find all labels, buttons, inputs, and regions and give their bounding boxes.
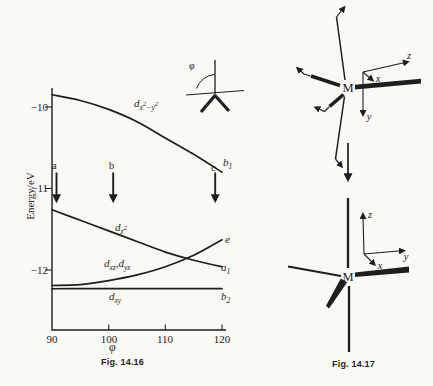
metal-label-top: M [342, 82, 353, 95]
axis-arrow-z-bottom [363, 217, 364, 254]
x-axis-title: φ [109, 341, 116, 353]
y-tick-label-neg10: −10 [26, 102, 48, 113]
symmetry-label-a1: a1 [221, 262, 230, 273]
symmetry-label-b1: b1 [223, 157, 232, 168]
chart-axes [52, 88, 226, 330]
curve-label-dxy: dxy [109, 291, 121, 302]
x-tick-label-110: 110 [153, 334, 177, 345]
axis-arrow-x-top [363, 72, 371, 79]
curve-a1 [52, 210, 222, 267]
axis-arrow-y-bottom [364, 251, 401, 254]
bond-equatorial-left [311, 76, 340, 86]
arrow-label-b: b [109, 161, 114, 172]
axis-label-bottom-y: y [404, 252, 409, 263]
inset-phi-label: φ [189, 61, 195, 71]
curve-label-dz2: dz2 [115, 222, 127, 233]
structure-top-square-pyramid [300, 10, 422, 165]
inset-angle-arc [197, 75, 215, 89]
motion-arrow-down [336, 159, 341, 165]
inset-wedge-bond-right [215, 96, 229, 112]
axis-arrow-z-top [363, 63, 405, 73]
phi-marker-arrows [57, 173, 216, 197]
symmetry-label-e: e [225, 234, 230, 245]
x-tick-label-90: 90 [40, 334, 64, 345]
bond-equatorial-right-wedge [355, 79, 421, 90]
y-tick-label-neg12: −12 [26, 265, 48, 276]
axis-label-bottom-z: z [368, 210, 372, 221]
arrow-label-a: a [52, 161, 57, 172]
axis-arrow-x-bottom [364, 254, 373, 263]
caption-fig-14-17: Fig. 14.17 [332, 360, 375, 369]
symmetry-label-b2: b2 [221, 291, 230, 302]
axis-label-top-x: x [376, 74, 381, 85]
curve-e [52, 240, 222, 286]
curve-label-dx2y2: dx2−y2 [134, 98, 158, 109]
orbital-energy-curves [52, 95, 222, 289]
motion-arrow-left [300, 70, 311, 76]
bond-apical [337, 17, 346, 80]
curve-label-dxzyz: dxz,dyz [104, 258, 130, 269]
caption-fig-14-16: Fig. 14.16 [101, 358, 144, 367]
axis-label-top-z: z [407, 51, 411, 62]
x-tick-label-120: 120 [210, 334, 234, 345]
axis-label-top-y: y [367, 112, 372, 123]
arrow-label-c: c [211, 163, 216, 174]
inset-wedge-bond-left [201, 96, 215, 113]
x-tick-marks [109, 325, 222, 331]
textbook-figure-panel: −10 −11 −12 90 100 110 120 Energy/eV φ d… [0, 0, 433, 386]
metal-label-bottom: M [342, 271, 353, 284]
bond-basal-down [336, 97, 345, 160]
y-axis-title: Energy/eV [25, 172, 36, 219]
bond-front-wedge [330, 95, 344, 107]
bond-equatorial-left [288, 267, 341, 277]
motion-arrow-front [318, 107, 329, 112]
motion-arrow-apical [337, 10, 343, 18]
figure-artwork [0, 0, 433, 386]
axis-label-bottom-x: x [378, 261, 383, 272]
coordinate-axes-bottom [363, 217, 401, 263]
